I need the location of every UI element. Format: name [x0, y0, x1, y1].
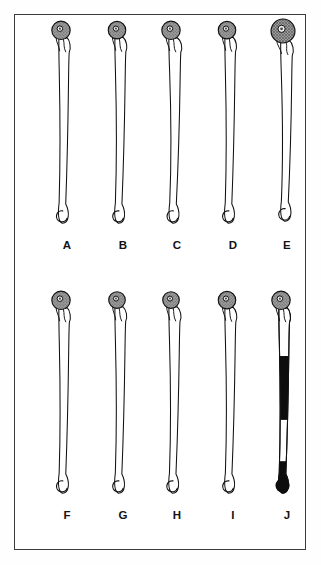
bone-illustration-a [39, 17, 95, 239]
bone-illustration-d [205, 17, 261, 239]
figure-plate: ABCDE FGHIJ [0, 0, 321, 565]
specimen-label-d: D [205, 239, 261, 251]
specimen-row-top: ABCDE [15, 17, 305, 262]
specimen-label-i: I [205, 509, 261, 521]
specimen-a: A [39, 17, 95, 262]
bone-illustration-g [95, 287, 151, 509]
specimen-e: E [259, 17, 315, 262]
specimen-b: B [95, 17, 151, 262]
specimen-row-bottom: FGHIJ [15, 287, 305, 532]
specimen-c: C [149, 17, 205, 262]
specimen-label-j: J [259, 509, 315, 521]
specimen-label-c: C [149, 239, 205, 251]
bone-illustration-b [95, 17, 151, 239]
bone-illustration-j [259, 287, 315, 509]
bone-illustration-c [149, 17, 205, 239]
bone-illustration-h [149, 287, 205, 509]
bone-illustration-e [259, 17, 315, 239]
specimen-label-b: B [95, 239, 151, 251]
specimen-label-f: F [39, 509, 95, 521]
bone-illustration-f [39, 287, 95, 509]
figure-frame: ABCDE FGHIJ [14, 14, 306, 550]
bone-illustration-i [205, 287, 261, 509]
specimen-h: H [149, 287, 205, 532]
specimen-label-h: H [149, 509, 205, 521]
specimen-d: D [205, 17, 261, 262]
specimen-label-g: G [95, 509, 151, 521]
specimen-g: G [95, 287, 151, 532]
specimen-j: J [259, 287, 315, 532]
specimen-label-e: E [259, 239, 315, 251]
specimen-i: I [205, 287, 261, 532]
specimen-f: F [39, 287, 95, 532]
specimen-label-a: A [39, 239, 95, 251]
